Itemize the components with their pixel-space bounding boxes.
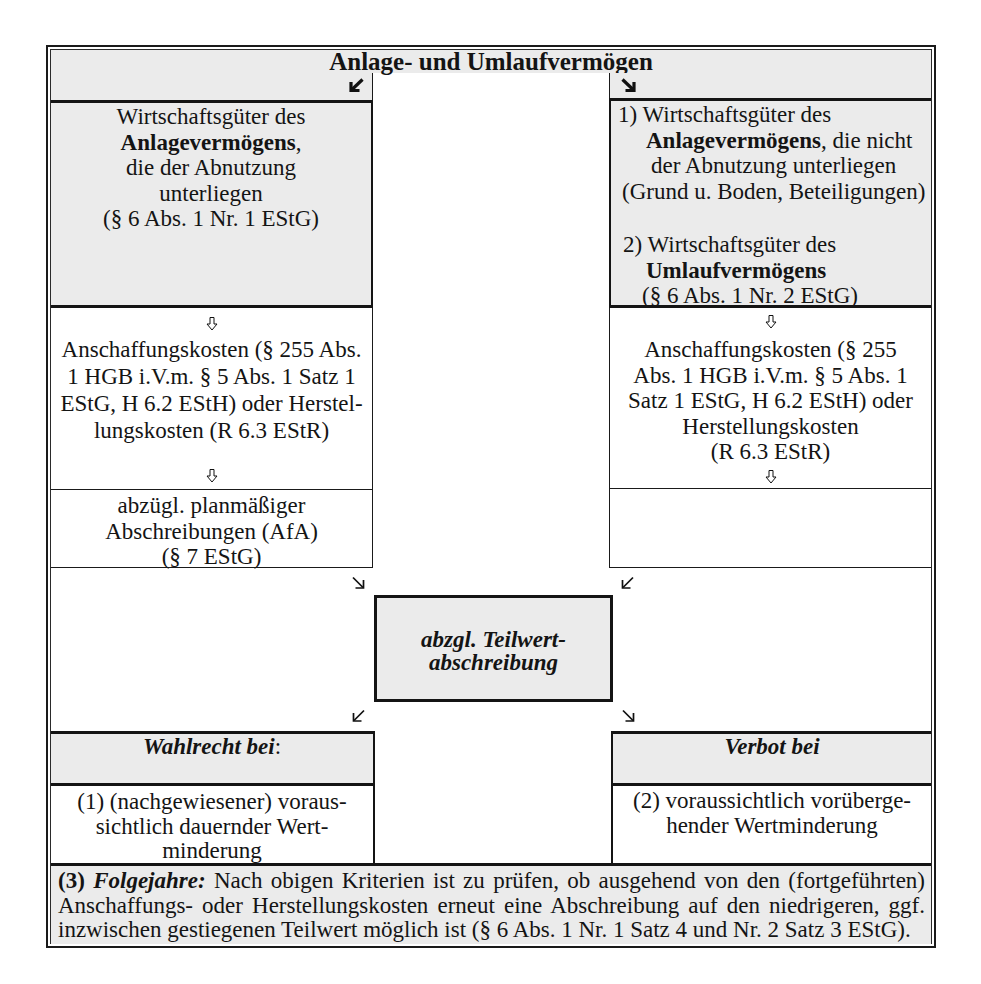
arrow-down-left-icon	[620, 576, 635, 590]
asset-box-line: unterliegen	[51, 181, 371, 207]
cost-line: Abs. 1 HGB i.V.m. § 5 Abs. 1	[610, 363, 931, 389]
item1-line: 1) Wirtschaftsgüter des	[611, 102, 931, 128]
depreciation-line: abzügl. planmäßiger	[51, 493, 372, 519]
prohibition-line: (2) voraussichtlich vorüberge-	[613, 788, 931, 813]
right-empty-box	[609, 489, 931, 568]
prohibition-body-box: (2) voraussichtlich vorüberge- hender We…	[611, 786, 931, 864]
punctuation: ,	[296, 130, 302, 155]
partial-value-writedown-box: abzgl. Teilwert- abschreibung	[374, 595, 613, 702]
option-heading-colon: :	[275, 734, 281, 759]
hollow-arrow-down-icon	[765, 470, 777, 484]
left-column-header	[51, 73, 373, 101]
right-cost-box: Anschaffungskosten (§ 255 Abs. 1 HGB i.V…	[609, 308, 931, 489]
item1-line-rest: , die nicht	[821, 128, 912, 153]
item2-line: 2) Wirtschaftsgüter des	[611, 232, 931, 258]
cost-line: Herstellungskosten	[610, 414, 931, 440]
cost-line: EStG, H 6.2 EStH) oder Herstel-	[51, 390, 372, 417]
arrow-down-right-icon	[621, 709, 636, 723]
cost-line: Anschaffungskosten (§ 255 Abs.	[51, 336, 372, 363]
option-line: minderung	[51, 839, 373, 864]
arrow-down-left-bold-icon	[348, 78, 365, 93]
cost-line: Satz 1 EStG, H 6.2 EStH) oder	[610, 388, 931, 414]
cost-line: Anschaffungskosten (§ 255	[610, 337, 931, 363]
option-body-box: (1) (nachgewiesener) voraus- sichtlich d…	[51, 786, 375, 864]
option-line: sichtlich dauernder Wert-	[51, 815, 373, 840]
cost-line: lungskosten (R 6.3 EStR)	[51, 417, 372, 444]
flow-arrow	[51, 312, 372, 336]
hollow-arrow-down-icon	[206, 469, 218, 483]
asset-box-line: Anlagevermögens,	[51, 130, 371, 156]
current-assets-term: Umlaufvermögens	[611, 258, 931, 284]
cost-line: 1 HGB i.V.m. § 5 Abs. 1 Satz 1	[51, 363, 372, 390]
depreciation-line: Abschreibungen (AfA)	[51, 519, 372, 545]
option-line: (1) (nachgewiesener) voraus-	[51, 790, 373, 815]
depreciable-fixed-assets-box: Wirtschaftsgüter des Anlagevermögens, di…	[51, 100, 373, 308]
flow-arrow	[610, 465, 931, 489]
footer-line: (3) Folgejahre: Nach obigen Kriterien is…	[58, 869, 925, 894]
hollow-arrow-down-icon	[206, 317, 218, 331]
arrow-down-left-icon	[351, 709, 366, 723]
center-line: abzgl. Teilwert-	[377, 628, 610, 651]
prohibition-heading-box: Verbot bei	[611, 731, 931, 786]
right-column-header	[609, 73, 931, 99]
footer-label: Folgejahre:	[93, 868, 205, 893]
option-heading: Wahlrecht bei	[143, 734, 275, 759]
following-years-note: (3) Folgejahre: Nach obigen Kriterien is…	[51, 863, 931, 944]
item1-line: der Abnutzung unterliegen	[611, 153, 931, 179]
legal-reference: (§ 6 Abs. 1 Nr. 2 EStG)	[611, 283, 931, 309]
flow-arrow	[610, 310, 931, 334]
legal-reference: (§ 6 Abs. 1 Nr. 1 EStG)	[51, 206, 371, 232]
center-line: abschreibung	[377, 651, 610, 674]
item1-line: (Grund u. Boden, Beteiligungen)	[611, 179, 931, 205]
item1-line: Anlagevermögens, die nicht	[611, 128, 931, 154]
prohibition-line: hender Wertminderung	[613, 813, 931, 838]
footer-line: Anschaffungs- oder Herstellungskosten er…	[58, 894, 925, 919]
prohibition-heading: Verbot bei	[724, 734, 819, 759]
diagram-title: Anlage- und Umlaufvermögen	[51, 50, 931, 73]
scheduled-depreciation-box: abzügl. planmäßiger Abschreibungen (AfA)…	[51, 490, 373, 568]
footer-number: (3)	[58, 868, 85, 893]
arrow-down-right-icon	[351, 576, 366, 590]
flow-arrow	[51, 464, 372, 488]
asset-box-line: Wirtschaftsgüter des	[51, 104, 371, 130]
arrow-down-right-bold-icon	[620, 78, 637, 93]
asset-box-line: die der Abnutzung	[51, 155, 371, 181]
fixed-assets-term: Anlagevermögens	[646, 128, 821, 153]
footer-line: inzwischen gestiegenen Teilwert möglich …	[58, 918, 925, 943]
fixed-assets-term: Anlagevermögens	[121, 130, 296, 155]
hollow-arrow-down-icon	[765, 315, 777, 329]
option-heading-box: Wahlrecht bei:	[51, 731, 375, 786]
footer-text: Nach obigen Kriterien ist zu prüfen, ob …	[214, 868, 925, 893]
non-depreciable-and-current-assets-box: 1) Wirtschaftsgüter des Anlagevermögens,…	[609, 98, 931, 308]
title-band: Anlage- und Umlaufvermögen	[51, 50, 931, 73]
legal-reference: (§ 7 EStG)	[51, 544, 372, 570]
legal-reference: (R 6.3 EStR)	[610, 439, 931, 465]
left-cost-box: Anschaffungskosten (§ 255 Abs. 1 HGB i.V…	[51, 308, 373, 490]
